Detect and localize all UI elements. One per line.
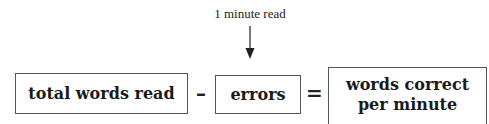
minus-operator: – (193, 81, 209, 105)
time-label: 1 minute read (190, 6, 310, 22)
down-arrow-icon (243, 26, 257, 60)
words-correct-per-minute-box: words correct per minute (328, 67, 487, 124)
errors-box: errors (215, 75, 301, 114)
total-words-read-label: total words read (28, 84, 174, 104)
errors-label: errors (230, 85, 285, 105)
words-correct-per-minute-label: words correct per minute (343, 75, 473, 119)
total-words-read-box: total words read (15, 73, 188, 114)
equals-operator: = (306, 81, 322, 105)
